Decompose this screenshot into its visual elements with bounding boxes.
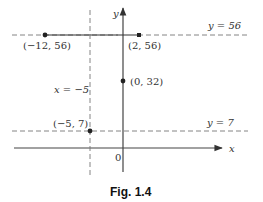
label-y56: y = 56 bbox=[207, 20, 242, 31]
label-point-neg5-7: (−5, 7) bbox=[53, 118, 88, 129]
figure-caption: Fig. 1.4 bbox=[110, 185, 152, 199]
point-0-32 bbox=[121, 79, 126, 84]
label-point-2-56: (2, 56) bbox=[128, 40, 161, 51]
coordinate-diagram: y x 0 y = 56 y = 7 x = −5 (−12, 56) (2, … bbox=[0, 0, 263, 202]
point-neg5-7 bbox=[88, 129, 93, 134]
label-x-5: x = −5 bbox=[54, 84, 89, 95]
label-point-neg12-56: (−12, 56) bbox=[23, 40, 71, 51]
label-point-0-32: (0, 32) bbox=[130, 76, 163, 87]
label-y7: y = 7 bbox=[206, 117, 234, 128]
point-2-56 bbox=[137, 33, 141, 37]
y-axis-label: y bbox=[112, 8, 119, 19]
origin-label: 0 bbox=[115, 152, 121, 163]
point-neg12-56 bbox=[43, 33, 48, 38]
x-axis-label: x bbox=[229, 143, 235, 154]
